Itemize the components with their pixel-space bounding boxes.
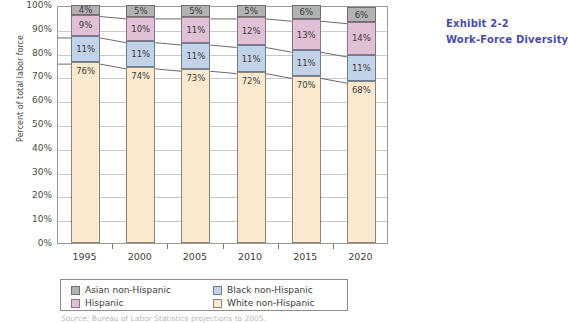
segment-value-label: 11% xyxy=(131,49,150,59)
y-axis-tick-label: 60% xyxy=(0,95,52,105)
stacked-bar-chart: Percent of total labor force 0%10%20%30%… xyxy=(0,0,400,275)
stacked-bar: 73%11%11%5% xyxy=(181,5,210,243)
connector-line xyxy=(266,47,292,52)
exhibit-number: Exhibit 2-2 xyxy=(446,16,568,32)
bar-segment-asian-non-hispanic: 5% xyxy=(126,5,155,17)
segment-value-label: 73% xyxy=(186,73,205,83)
x-axis-tick-label: 2015 xyxy=(285,251,325,262)
legend-item-white[interactable]: White non-Hispanic xyxy=(213,298,315,308)
source-label: Source: xyxy=(61,314,89,323)
bar-segment-white-non-hispanic: 72% xyxy=(237,72,266,243)
connector-line xyxy=(321,21,347,23)
x-axis-tick-label: 1995 xyxy=(65,251,105,262)
segment-value-label: 6% xyxy=(355,10,369,20)
y-axis-tick-label: 0% xyxy=(0,238,52,248)
segment-value-label: 6% xyxy=(300,7,314,17)
stacked-bar: 76%11%9%4% xyxy=(71,5,100,243)
bar-segment-white-non-hispanic: 74% xyxy=(126,67,155,243)
segment-value-label: 10% xyxy=(131,24,150,34)
connector-line xyxy=(266,19,292,21)
legend-item-hispanic[interactable]: Hispanic xyxy=(71,298,123,308)
y-axis-tick-label: 20% xyxy=(0,190,52,200)
gridline xyxy=(58,150,387,151)
bar-segment-asian-non-hispanic: 6% xyxy=(292,5,321,19)
connector-line xyxy=(155,69,181,71)
connector-line xyxy=(100,64,126,69)
gridline xyxy=(58,221,387,222)
segment-value-label: 11% xyxy=(297,58,316,68)
bar-segment-hispanic: 13% xyxy=(292,19,321,50)
segment-value-label: 70% xyxy=(297,80,316,90)
legend-item-asian[interactable]: Asian non-Hispanic xyxy=(71,285,171,295)
gridline xyxy=(58,31,387,32)
legend-label: Black non-Hispanic xyxy=(227,285,313,295)
segment-value-label: 11% xyxy=(186,25,205,35)
stacked-bar: 68%11%14%6% xyxy=(347,5,376,243)
y-axis-tick-label: 100% xyxy=(0,0,52,10)
x-axis-tick-label: 2005 xyxy=(175,251,215,262)
chart-legend: Asian non-HispanicBlack non-HispanicHisp… xyxy=(60,279,348,311)
stacked-bar: 74%11%10%5% xyxy=(126,5,155,243)
bar-segment-asian-non-hispanic: 5% xyxy=(181,5,210,17)
gridline xyxy=(58,197,387,198)
bar-segment-black-non-hispanic: 11% xyxy=(292,50,321,76)
connector-line xyxy=(210,45,236,47)
bar-segment-hispanic: 10% xyxy=(126,17,155,41)
segment-value-label: 72% xyxy=(242,76,261,86)
gridline xyxy=(58,55,387,56)
y-axis-tick-label: 40% xyxy=(0,143,52,153)
bar-segment-white-non-hispanic: 73% xyxy=(181,69,210,243)
segment-value-label: 76% xyxy=(76,66,95,76)
y-axis-tick-label: 80% xyxy=(0,48,52,58)
segment-value-label: 74% xyxy=(131,71,150,81)
exhibit-title-block: Exhibit 2-2 Work-Force Diversity xyxy=(446,16,568,48)
legend-label: White non-Hispanic xyxy=(227,298,315,308)
connector-line xyxy=(210,71,236,73)
y-axis-tick-label: 30% xyxy=(0,167,52,177)
bar-segment-black-non-hispanic: 11% xyxy=(347,55,376,81)
plot-area: 76%11%9%4%74%11%10%5%73%11%11%5%72%11%12… xyxy=(57,6,388,244)
legend-swatch-asian xyxy=(71,286,80,295)
stacked-bar: 70%11%13%6% xyxy=(292,5,321,243)
segment-value-label: 4% xyxy=(79,5,93,15)
gridline xyxy=(58,126,387,127)
x-axis-tick-mark xyxy=(223,244,224,249)
segment-value-label: 5% xyxy=(244,6,258,16)
x-axis-tick-label: 2000 xyxy=(120,251,160,262)
x-axis-tick-mark xyxy=(112,244,113,249)
legend-swatch-white xyxy=(213,299,222,308)
gridline xyxy=(58,102,387,103)
exhibit-title: Work-Force Diversity xyxy=(446,32,568,48)
legend-swatch-hispanic xyxy=(71,299,80,308)
connector-line xyxy=(155,43,181,45)
segment-value-label: 11% xyxy=(352,63,371,73)
bar-segment-black-non-hispanic: 11% xyxy=(181,43,210,69)
legend-item-black[interactable]: Black non-Hispanic xyxy=(213,285,313,295)
bar-segment-white-non-hispanic: 70% xyxy=(292,76,321,243)
segment-value-label: 11% xyxy=(186,51,205,61)
x-axis-tick-mark xyxy=(167,244,168,249)
bar-segment-black-non-hispanic: 11% xyxy=(126,41,155,67)
bar-segment-hispanic: 9% xyxy=(71,15,100,36)
source-note: Source: Bureau of Labor Statistics proje… xyxy=(61,314,266,323)
bar-segment-asian-non-hispanic: 5% xyxy=(237,5,266,17)
segment-value-label: 9% xyxy=(79,20,93,30)
y-axis-tick-label: 90% xyxy=(0,24,52,34)
bar-segment-black-non-hispanic: 11% xyxy=(237,45,266,71)
bar-segment-hispanic: 14% xyxy=(347,22,376,55)
y-axis-tick-label: 10% xyxy=(0,214,52,224)
bar-segment-asian-non-hispanic: 6% xyxy=(347,7,376,21)
bar-segment-hispanic: 12% xyxy=(237,17,266,46)
legend-label: Asian non-Hispanic xyxy=(85,285,171,295)
x-axis-tick-mark xyxy=(278,244,279,249)
bar-segment-hispanic: 11% xyxy=(181,17,210,43)
gridline xyxy=(58,174,387,175)
legend-swatch-black xyxy=(213,286,222,295)
segment-value-label: 5% xyxy=(189,6,203,16)
x-axis-tick-label: 2010 xyxy=(230,251,270,262)
bar-segment-white-non-hispanic: 76% xyxy=(71,62,100,243)
bar-segment-black-non-hispanic: 11% xyxy=(71,36,100,62)
gridline xyxy=(58,78,387,79)
y-axis-tick-label: 50% xyxy=(0,119,52,129)
segment-value-label: 14% xyxy=(352,33,371,43)
